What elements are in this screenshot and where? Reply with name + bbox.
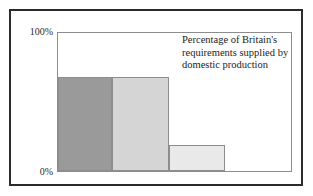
- y-axis-label-min: 0%: [13, 166, 53, 177]
- y-axis-label-max: 100%: [13, 26, 53, 37]
- chart-caption: Percentage of Britain's requirements sup…: [182, 34, 294, 72]
- bar: [112, 77, 170, 171]
- figure-frame: 100% 0% Percentage of Britain's requirem…: [9, 9, 303, 186]
- bar: [169, 145, 224, 171]
- caption-line-1: Percentage of Britain's: [182, 34, 294, 47]
- caption-line-2: requirements supplied by: [182, 47, 294, 60]
- caption-line-3: domestic production: [182, 59, 294, 72]
- bar: [58, 77, 112, 171]
